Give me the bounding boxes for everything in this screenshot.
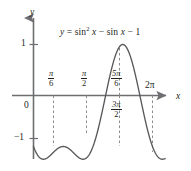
x-tick-3pi-over-2-numerator: 3π <box>111 100 122 109</box>
x-tick-label-3pi-over-2: 3π 2 <box>111 100 122 119</box>
x-tick-pi-over-2-denominator: 2 <box>81 78 87 88</box>
x-tick-label-5pi-over-6: 5π 6 <box>111 69 122 88</box>
equation-label: y = sin2 x − sin x − 1 <box>60 26 140 38</box>
equation-sin-1: sin <box>75 27 86 37</box>
x-tick-label-2pi: 2π <box>145 81 155 91</box>
equation-lhs: y <box>60 27 64 37</box>
y-tick-label-neg1: −1 <box>14 133 24 143</box>
x-tick-3pi-over-2-denominator: 2 <box>111 109 122 119</box>
equation-constant: 1 <box>135 27 140 37</box>
x-tick-pi-over-6-numerator: π <box>48 69 54 78</box>
x-tick-5pi-over-6-numerator: 5π <box>111 69 122 78</box>
equation-exponent: 2 <box>86 25 89 32</box>
equation-minus-2: − <box>127 27 132 37</box>
x-tick-pi-over-6-denominator: 6 <box>48 78 54 88</box>
x-tick-label-pi-over-2: π 2 <box>81 69 87 88</box>
equation-equals: = <box>67 27 72 37</box>
x-axis-label: x <box>176 92 180 102</box>
x-tick-label-pi-over-6: π 6 <box>48 69 54 88</box>
x-tick-pi-over-2-numerator: π <box>81 69 87 78</box>
x-tick-5pi-over-6-denominator: 6 <box>111 78 122 88</box>
graph-figure: y = sin2 x − sin x − 1 y x 1 −1 0 π 6 π … <box>0 0 191 171</box>
equation-var-1: x <box>92 27 96 37</box>
origin-label: 0 <box>24 101 29 111</box>
y-axis-label: y <box>30 8 34 18</box>
y-tick-label-1: 1 <box>21 39 26 49</box>
equation-minus-1: − <box>99 27 104 37</box>
equation-var-2: x <box>121 27 125 37</box>
equation-sin-2: sin <box>107 27 118 37</box>
